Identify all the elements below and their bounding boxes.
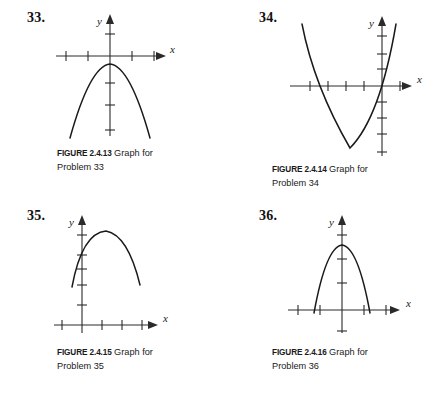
y-axis-label: y [368,17,374,29]
y-axis-arrow [338,215,346,225]
problem-number-33: 33. [27,10,45,26]
problem-number-35: 35. [27,208,45,224]
x-axis-label: x [416,73,422,85]
y-axis-label: y [96,15,102,27]
figure-caption-label: FIGURE 2.4.15 [57,348,112,357]
figure-panel-33: 33. x y [0,0,223,198]
y-axis-label: y [328,216,334,228]
y-axis-arrow [106,14,114,24]
figure-caption-34: FIGURE 2.4.14 Graph for Problem 34 [272,163,402,189]
plot-35: x y [48,207,193,344]
x-axis-arrow [156,52,166,60]
figure-caption-36: FIGURE 2.4.16 Graph for Problem 36 [272,346,402,372]
x-axis-label: x [405,297,411,309]
graph-33-svg: x y [48,8,188,143]
y-axis-arrow [78,215,86,225]
figure-caption-label: FIGURE 2.4.16 [272,348,327,357]
plot-34: x y [284,8,439,164]
problem-number-36: 36. [259,208,277,224]
x-axis-arrow [402,82,412,90]
y-axis-label: y [68,216,74,228]
x-axis-arrow [390,306,400,314]
figure-caption-label: FIGURE 2.4.13 [57,149,112,158]
figure-caption-33: FIGURE 2.4.13 Graph for Problem 33 [57,147,187,173]
graph-34-svg: x y [284,8,439,160]
x-axis-arrow [148,321,158,329]
figure-caption-35: FIGURE 2.4.15 Graph for Problem 35 [57,346,187,372]
graph-36-svg: x y [282,207,432,340]
x-axis-label: x [169,43,175,55]
graph-35-svg: x y [48,207,193,340]
plot-36: x y [282,207,432,344]
figure-panel-36: 36. x y [224,199,447,397]
problem-number-34: 34. [259,10,277,26]
figure-caption-label: FIGURE 2.4.14 [272,165,327,174]
plot-33: x y [48,8,188,147]
x-axis-label: x [162,312,168,324]
figure-panel-34: 34. [224,0,447,198]
y-axis-arrow [378,16,386,26]
figure-panel-35: 35. x [0,199,223,397]
figure-grid: 33. x y [0,0,447,397]
